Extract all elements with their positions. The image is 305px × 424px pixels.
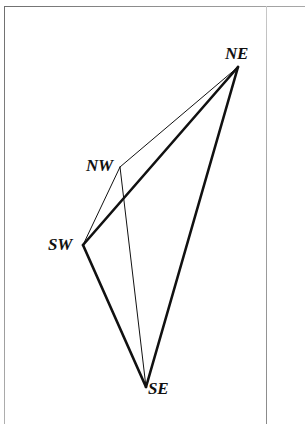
- vertex-label-nw: NW: [86, 157, 113, 174]
- edges-group: [83, 67, 238, 387]
- vertex-label-ne: NE: [225, 45, 248, 62]
- edge-sw-se: [83, 245, 146, 387]
- edge-se-ne: [146, 67, 238, 387]
- figure-page: NE NW SW SE: [0, 0, 305, 424]
- edge-nw-sw: [83, 167, 120, 245]
- quadrilateral-diagram: [0, 0, 305, 424]
- vertex-label-se: SE: [148, 380, 168, 397]
- edge-nw-ne: [120, 67, 238, 167]
- vertex-label-sw: SW: [48, 236, 72, 253]
